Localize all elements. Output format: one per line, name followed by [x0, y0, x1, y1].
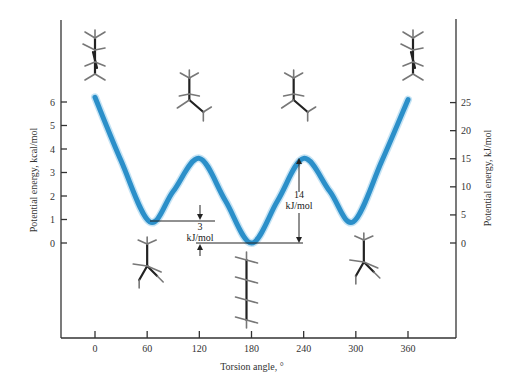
x-tick-label: 240: [296, 343, 311, 354]
annotation-3-value: 3: [198, 221, 203, 232]
energy-curve: [95, 97, 408, 243]
x-tick-label: 300: [348, 343, 363, 354]
molecule-gauche-300: [350, 233, 380, 284]
x-tick-label: 120: [192, 343, 207, 354]
y-right-tick-label: 10: [461, 181, 471, 192]
energy-curve-shadow: [95, 97, 408, 243]
y-left-tick-label: 3: [50, 167, 55, 178]
annotation-14-unit: kJ/mol: [285, 200, 312, 211]
y-right-tick-label: 20: [461, 125, 471, 136]
molecule-eclipsed-360: [401, 30, 423, 80]
torsion-energy-chart: 01234560510152025060120180240300360 Tors…: [0, 0, 520, 389]
x-tick-label: 0: [93, 343, 98, 354]
y-left-tick-label: 2: [50, 191, 55, 202]
y-left-tick-label: 0: [50, 238, 55, 249]
molecule-gauche-60: [133, 237, 163, 288]
axes: [61, 19, 456, 338]
y-left-tick-label: 4: [50, 144, 55, 155]
y-axis-right-label: Potential energy, kJ/mol: [482, 129, 493, 226]
x-tick-label: 360: [401, 343, 416, 354]
annotation-3-unit: kJ/mol: [186, 232, 213, 243]
x-axis-label: Torsion angle, °: [220, 361, 284, 372]
y-right-tick-label: 0: [461, 238, 466, 249]
annotation-3-kj: [150, 205, 303, 256]
x-tick-label: 60: [142, 343, 152, 354]
molecule-anti-180: [236, 252, 258, 328]
y-right-tick-label: 25: [461, 97, 471, 108]
y-left-tick-label: 6: [50, 97, 55, 108]
molecule-eclipsed-120: [177, 70, 211, 121]
annotation-14-value: 14: [294, 189, 304, 200]
y-left-tick-label: 5: [50, 120, 55, 131]
y-left-tick-label: 1: [50, 214, 55, 225]
molecule-eclipsed-240: [282, 70, 316, 121]
y-right-tick-label: 15: [461, 153, 471, 164]
x-tick-label: 180: [244, 343, 259, 354]
molecule-eclipsed-0: [83, 30, 105, 80]
y-right-tick-label: 5: [461, 209, 466, 220]
y-axis-left-label: Potential energy, kcal/mol: [28, 128, 39, 233]
